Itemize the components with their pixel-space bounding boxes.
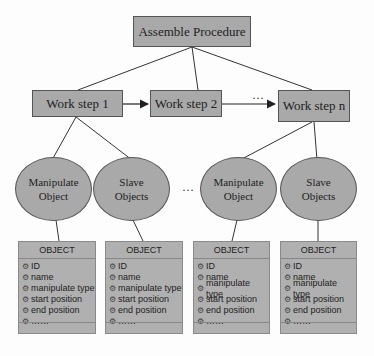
attribute-label: ID [293, 261, 302, 272]
attribute-label: start position [31, 294, 82, 305]
attribute-row: ⚙end position [22, 305, 95, 316]
attribute-icon: ⚙ [284, 296, 292, 304]
attribute-icon: ⚙ [109, 296, 117, 304]
node-assemble-procedure: Assemble Procedure [133, 16, 251, 47]
attribute-icon: ⚙ [197, 274, 205, 282]
ellipse-label-line2: Objects [115, 189, 149, 203]
attribute-icon: ⚙ [109, 285, 117, 293]
node-work-step-2: Work step 2 [150, 90, 222, 117]
ellipse-manipulate-object-1: ManipulateObject [15, 157, 92, 221]
attribute-label: end position [118, 305, 167, 316]
attribute-row: ⚙manipulate type [22, 283, 95, 294]
attribute-row: ⚙ID [22, 261, 95, 272]
attribute-row: ⚙start position [109, 294, 182, 305]
attribute-icon: ⚙ [22, 296, 30, 304]
object-table-2: OBJECT ⚙ID ⚙name ⚙manipulate type ⚙start… [105, 241, 183, 334]
attribute-label: end position [206, 305, 255, 316]
attribute-label: ID [31, 261, 40, 272]
attribute-icon: ⚙ [284, 285, 292, 293]
attribute-row: ⚙end position [197, 305, 269, 316]
attribute-icon: ⚙ [22, 285, 30, 293]
ellipse-label-line1: Manipulate [213, 175, 263, 189]
attribute-label: end position [293, 305, 342, 316]
ellipse-label-line1: Slave [302, 175, 336, 189]
attribute-icon: ⚙ [22, 274, 30, 282]
attribute-label: start position [206, 294, 257, 305]
attribute-row: ⚙ID [109, 261, 182, 272]
ellipse-label-line2: Object [213, 189, 263, 203]
object-table-1: OBJECT ⚙ID ⚙name ⚙manipulate type ⚙start… [18, 241, 96, 334]
object-table-title: OBJECT [106, 242, 182, 259]
attribute-icon: ⚙ [109, 274, 117, 282]
ellipse-manipulate-object-2: ManipulateObject [200, 157, 277, 221]
attribute-icon: ⚙ [284, 307, 292, 315]
object-table-title: OBJECT [281, 242, 356, 259]
attribute-row: ⚙name [22, 272, 95, 283]
object-table-4: OBJECT ⚙ID ⚙name ⚙manipulate type ⚙start… [280, 241, 357, 334]
attribute-row: ⚙end position [284, 305, 356, 316]
attribute-label: manipulate type [118, 283, 182, 294]
attribute-icon: ⚙ [284, 263, 292, 271]
object-table-title: OBJECT [194, 242, 269, 259]
attribute-icon: ⚙ [109, 263, 117, 271]
attribute-row: ⚙ID [284, 261, 356, 272]
attribute-label: manipulate type [31, 283, 95, 294]
attribute-row: ⚙manipulate type [197, 283, 269, 294]
attribute-row: ⚙end position [109, 305, 182, 316]
attribute-icon: ⚙ [197, 307, 205, 315]
object-table-footer [281, 322, 356, 333]
ellipse-slave-objects-1: SlaveObjects [93, 157, 170, 221]
attribute-row: ⚙manipulate type [109, 283, 182, 294]
attribute-icon: ⚙ [22, 307, 30, 315]
attribute-icon: ⚙ [284, 274, 292, 282]
attribute-label: ID [206, 261, 215, 272]
attribute-label: name [118, 272, 141, 283]
attribute-label: name [31, 272, 54, 283]
objects-ellipsis: … [182, 180, 195, 195]
ellipse-label-line2: Objects [302, 189, 336, 203]
object-table-3: OBJECT ⚙ID ⚙name ⚙manipulate type ⚙start… [193, 241, 270, 334]
ellipse-slave-objects-2: SlaveObjects [280, 157, 357, 221]
attribute-row: ⚙manipulate type [284, 283, 356, 294]
attribute-row: ⚙start position [22, 294, 95, 305]
attribute-label: end position [31, 305, 80, 316]
node-work-step-1: Work step 1 [32, 90, 123, 117]
attribute-row: ⚙ID [197, 261, 269, 272]
attribute-icon: ⚙ [197, 285, 205, 293]
object-table-footer [19, 322, 95, 333]
object-table-footer [194, 322, 269, 333]
attribute-label: start position [118, 294, 169, 305]
ellipse-label-line1: Slave [115, 175, 149, 189]
object-table-title: OBJECT [19, 242, 95, 259]
ellipse-label-line2: Object [28, 189, 78, 203]
attribute-icon: ⚙ [22, 263, 30, 271]
diagram-canvas: Assemble Procedure Work step 1 Work step… [0, 0, 374, 356]
attribute-icon: ⚙ [109, 307, 117, 315]
attribute-icon: ⚙ [197, 296, 205, 304]
attribute-row: ⚙name [109, 272, 182, 283]
attribute-label: ID [118, 261, 127, 272]
attribute-label: start position [293, 294, 344, 305]
ellipse-label-line1: Manipulate [28, 175, 78, 189]
attribute-icon: ⚙ [197, 263, 205, 271]
node-work-step-n: Work step n [278, 90, 350, 122]
steps-ellipsis: … [252, 88, 265, 103]
object-table-footer [106, 322, 182, 333]
